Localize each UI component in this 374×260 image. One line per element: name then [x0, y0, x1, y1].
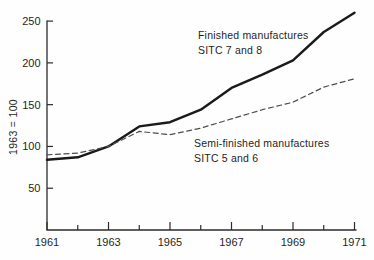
series-label-finished-line1: Finished manufactures	[198, 28, 308, 43]
y-tick-label: 200	[22, 57, 40, 69]
y-tick-label: 50	[28, 182, 40, 194]
y-tick-label: 250	[22, 15, 40, 27]
chart: 50100150200250196119631965196719691971 1…	[0, 0, 374, 260]
x-tick-label: 1961	[35, 236, 59, 248]
x-tick-label: 1963	[96, 236, 120, 248]
y-tick-label: 150	[22, 99, 40, 111]
series-label-semi-finished-line1: Semi-finished manufactures	[194, 136, 329, 151]
x-tick-label: 1969	[281, 236, 305, 248]
series-label-semi-finished: Semi-finished manufactures SITC 5 and 6	[194, 136, 329, 166]
line-chart-canvas: 50100150200250196119631965196719691971	[0, 0, 374, 260]
y-axis-title: 1963 = 100	[7, 99, 19, 155]
series-label-finished: Finished manufactures SITC 7 and 8	[198, 28, 308, 58]
y-tick-label: 100	[22, 140, 40, 152]
series-label-finished-line2: SITC 7 and 8	[198, 43, 308, 58]
series-label-semi-finished-line2: SITC 5 and 6	[194, 151, 329, 166]
x-tick-label: 1971	[342, 236, 366, 248]
x-tick-label: 1967	[219, 236, 243, 248]
x-tick-label: 1965	[158, 236, 182, 248]
